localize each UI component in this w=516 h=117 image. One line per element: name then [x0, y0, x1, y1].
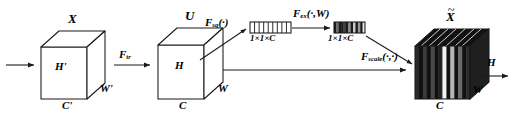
output-cube-bottom-label: C: [436, 100, 443, 111]
squeeze-vector-shape: [250, 22, 291, 33]
squeeze-vector-dims: 1×1×C: [250, 34, 275, 43]
input-cube-front-label: H': [55, 61, 67, 72]
scale-args: (·,·): [382, 50, 398, 62]
excite-args: (·,W): [307, 7, 330, 19]
feature-cube-top-label: U: [185, 9, 194, 22]
input-cube-top-label: X: [68, 12, 77, 25]
excite-vector-dims: 1×1×C: [328, 34, 353, 43]
input-cube-bottom-label: C': [62, 100, 72, 111]
scale-subscript: scale: [368, 55, 382, 62]
feature-cube-shape: [158, 28, 223, 99]
transform-operator-label: Ftr: [119, 49, 131, 61]
excite-vector-shape: [334, 22, 365, 33]
feature-cube-right-label: W: [218, 83, 228, 94]
squeeze-args: (·): [218, 16, 228, 28]
input-cube-shape: [41, 31, 105, 99]
output-cube-bottom-right-label: W: [473, 84, 483, 95]
feature-cube-front-label: H: [175, 60, 184, 71]
feature-cube-bottom-label: C: [179, 100, 186, 111]
output-cube-right-label: H: [487, 57, 496, 68]
transform-subscript: tr: [126, 53, 131, 60]
squeeze-operator-label: Fsq(·): [205, 17, 228, 29]
tilde-accent: ~: [448, 4, 455, 16]
excite-operator-label: Fex(·,W): [293, 8, 329, 20]
scale-operator-label: Fscale(·,·): [361, 51, 398, 63]
se-block-diagram: X H' W' C' U H W C ~ X H W C Ftr Fsq(·) …: [0, 0, 516, 117]
output-cube-top-label: ~ X: [446, 10, 455, 23]
input-cube-right-label: W': [100, 83, 113, 94]
